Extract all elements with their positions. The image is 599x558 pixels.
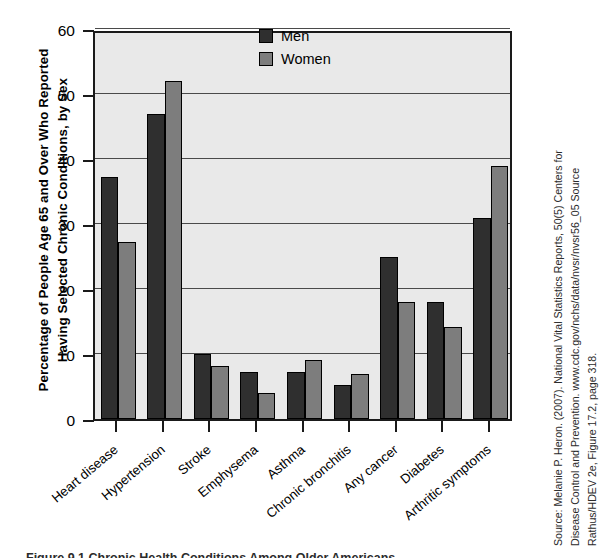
legend-item-men: Men bbox=[259, 28, 331, 44]
bar-men-any-cancer bbox=[380, 257, 398, 420]
bar-men-asthma bbox=[287, 372, 305, 419]
x-tick-mark-8 bbox=[488, 421, 490, 432]
source-note-line-2: Disease Control and Prevention. www.cdc.… bbox=[567, 6, 584, 546]
y-tick-label-0: 0 bbox=[66, 412, 75, 430]
bar-men-arthritic-symptoms bbox=[473, 218, 491, 420]
bar-men-chronic-bronchitis bbox=[334, 385, 352, 419]
bar-women-stroke bbox=[211, 366, 229, 419]
x-category-label-arthritic-symptoms: Arthritic symptoms bbox=[331, 442, 494, 558]
bar-men-hypertension bbox=[147, 114, 165, 420]
y-tick-label-50: 50 bbox=[58, 87, 75, 105]
x-tick-mark-2 bbox=[208, 421, 210, 432]
source-note: Source: Melanie P. Heron. (2007). Nation… bbox=[550, 6, 599, 546]
y-tick-label-40: 40 bbox=[58, 152, 75, 170]
bar-women-any-cancer bbox=[398, 302, 416, 419]
bar-women-hypertension bbox=[165, 81, 183, 419]
x-tick-mark-5 bbox=[348, 421, 350, 432]
bar-men-heart-disease bbox=[101, 177, 119, 419]
y-tick-label-10: 10 bbox=[58, 347, 75, 365]
x-tick-mark-3 bbox=[255, 421, 257, 432]
legend-item-women: Women bbox=[259, 51, 331, 67]
bar-men-stroke bbox=[194, 354, 212, 419]
bar-group-container bbox=[95, 33, 510, 419]
x-tick-mark-0 bbox=[115, 421, 117, 432]
x-tick-mark-1 bbox=[162, 421, 164, 432]
source-note-line-1: Source: Melanie P. Heron. (2007). Nation… bbox=[550, 6, 567, 546]
bar-women-asthma bbox=[305, 360, 323, 419]
x-tick-mark-6 bbox=[395, 421, 397, 432]
bar-women-chronic-bronchitis bbox=[351, 374, 369, 420]
bar-women-emphysema bbox=[258, 393, 276, 419]
legend-swatch-women-icon bbox=[259, 52, 273, 66]
x-tick-mark-7 bbox=[441, 421, 443, 432]
y-tick-label-30: 30 bbox=[58, 217, 75, 235]
legend-swatch-men-icon bbox=[259, 29, 273, 43]
bar-women-arthritic-symptoms bbox=[491, 166, 509, 420]
x-tick-mark-4 bbox=[302, 421, 304, 432]
bar-men-diabetes bbox=[427, 302, 445, 419]
chart-figure: Percentage of People Age 65 and Over Who… bbox=[0, 0, 599, 558]
legend-label-women: Women bbox=[281, 51, 331, 67]
y-tick-label-60: 60 bbox=[58, 22, 75, 40]
bar-women-heart-disease bbox=[118, 242, 136, 419]
source-note-line-3: Rathus/HDEV 2e, Figure 17.2, page 318. bbox=[584, 6, 599, 546]
y-tick-label-20: 20 bbox=[58, 282, 75, 300]
figure-caption: Figure 9.1 Chronic Health Conditions Amo… bbox=[26, 551, 446, 558]
plot-area bbox=[93, 31, 512, 421]
legend-label-men: Men bbox=[281, 28, 309, 44]
legend: Men Women bbox=[259, 28, 331, 67]
bar-women-diabetes bbox=[444, 327, 462, 419]
bar-men-emphysema bbox=[240, 372, 258, 419]
